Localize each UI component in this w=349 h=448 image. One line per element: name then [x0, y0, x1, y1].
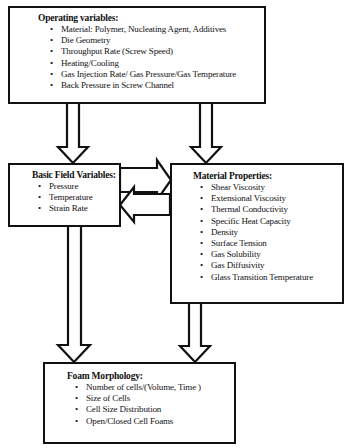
basic-field-variables-list: Pressure Temperature Strain Rate [38, 181, 119, 215]
list-item: Size of Cells [75, 393, 234, 404]
list-item: Density [200, 227, 342, 238]
list-item: Extensional Viscosity [200, 193, 342, 204]
list-item: Heating/Cooling [50, 58, 264, 69]
operating-variables-box: Operating variables: Material: Polymer, … [8, 6, 266, 104]
list-item: Shear Viscosity [200, 182, 342, 193]
list-item: Surface Tension [200, 238, 342, 249]
list-item: Glass Transition Temperature [200, 272, 342, 283]
down-arrow-icon [58, 226, 90, 362]
list-item: Open/Closed Cell Foams [75, 416, 234, 427]
list-item: Gas Injection Rate/ Gas Pressure/Gas Tem… [50, 69, 264, 80]
foam-morphology-title: Foam Morphology: [67, 371, 234, 382]
basic-field-variables-title: Basic Field Variables: [32, 170, 119, 181]
list-item: Thermal Conductivity [200, 204, 342, 215]
down-arrow-icon [191, 103, 221, 163]
operating-variables-title: Operating variables: [38, 13, 264, 24]
material-properties-list: Shear Viscosity Extensional Viscosity Th… [200, 182, 342, 283]
list-item: Back Pressure in Screw Channel [50, 80, 264, 91]
foam-morphology-box: Foam Morphology: Number of cells/(Volume… [43, 362, 236, 444]
list-item: Temperature [38, 192, 119, 203]
foam-morphology-list: Number of cells/(Volume, Time ) Size of … [75, 382, 234, 427]
list-item: Material: Polymer, Nucleating Agent, Add… [50, 24, 264, 35]
down-arrow-icon [58, 103, 88, 163]
list-item: Number of cells/(Volume, Time ) [75, 382, 234, 393]
list-item: Gas Diffusivity [200, 260, 342, 271]
list-item: Strain Rate [38, 203, 119, 214]
material-properties-box: Material Properties: Shear Viscosity Ext… [170, 163, 344, 304]
down-arrow-icon [180, 303, 210, 362]
material-properties-title: Material Properties: [193, 171, 342, 182]
list-item: Pressure [38, 181, 119, 192]
list-item: Specific Heat Capacity [200, 216, 342, 227]
basic-field-variables-box: Basic Field Variables: Pressure Temperat… [8, 163, 121, 227]
list-item: Throughput Rate (Screw Speed) [50, 46, 264, 57]
operating-variables-list: Material: Polymer, Nucleating Agent, Add… [50, 24, 264, 91]
list-item: Die Geometry [50, 35, 264, 46]
list-item: Cell Size Distribution [75, 404, 234, 415]
list-item: Gas Solubility [200, 249, 342, 260]
